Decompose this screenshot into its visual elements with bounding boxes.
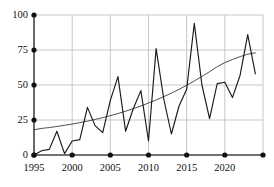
x-axis-tick-label: 2000 bbox=[52, 163, 92, 174]
y-axis-tick-label: 50 bbox=[18, 80, 29, 91]
series-line-observed bbox=[34, 23, 255, 155]
y-axis-tick-label: 25 bbox=[18, 115, 29, 126]
y-axis-tick-marker bbox=[31, 117, 36, 122]
chart-container: 0255075100 199520002005201020152020 bbox=[0, 0, 274, 187]
x-axis-tick-label: 2005 bbox=[90, 163, 130, 174]
y-axis-tick-label: 100 bbox=[12, 10, 28, 21]
x-axis-tick-marker bbox=[184, 152, 189, 157]
x-axis-tick-marker bbox=[70, 152, 75, 157]
y-axis-tick-label: 75 bbox=[18, 45, 29, 56]
x-axis-tick-marker bbox=[146, 152, 151, 157]
y-axis-tick-marker bbox=[31, 82, 36, 87]
x-axis-tick-label: 1995 bbox=[14, 163, 54, 174]
x-axis-tick-label: 2015 bbox=[167, 163, 207, 174]
chart-plot-area bbox=[0, 0, 274, 187]
x-axis-tick-label: 2010 bbox=[129, 163, 169, 174]
y-axis-tick-marker bbox=[31, 12, 36, 17]
x-axis-tick-label: 2020 bbox=[205, 163, 245, 174]
y-axis-tick-marker bbox=[31, 152, 36, 157]
x-axis-tick-marker bbox=[108, 152, 113, 157]
x-axis-tick-marker bbox=[222, 152, 227, 157]
y-axis-tick-label: 0 bbox=[23, 150, 28, 161]
x-axis-tick-marker bbox=[260, 152, 265, 157]
y-axis-tick-marker bbox=[31, 47, 36, 52]
